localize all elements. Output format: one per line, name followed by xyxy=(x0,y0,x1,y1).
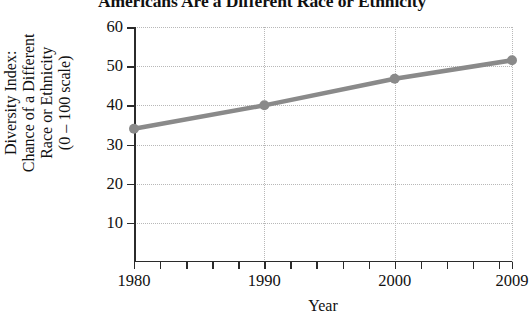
data-point-marker xyxy=(259,100,269,110)
y-axis-tick xyxy=(127,27,134,29)
x-axis-title: Year xyxy=(134,297,512,315)
y-axis-tick-label: 10 xyxy=(107,213,124,233)
x-axis-tick-label: 1990 xyxy=(248,271,281,291)
x-axis-tick xyxy=(160,262,161,269)
series-line xyxy=(134,60,512,129)
x-axis-tick-label: 2009 xyxy=(496,271,529,291)
y-axis-title-line-4: (0 – 100 scale) xyxy=(56,0,74,209)
x-axis-tick-label: 1980 xyxy=(118,271,151,291)
y-axis-tick-label: 50 xyxy=(107,56,124,76)
y-axis-tick xyxy=(127,223,134,225)
y-axis-title-line-2: Chance of a Different xyxy=(20,0,38,209)
y-axis-tick xyxy=(127,145,134,147)
y-axis-tick xyxy=(127,66,134,68)
x-axis-tick xyxy=(343,262,344,269)
y-axis-title-line-3: Race or Ethnicity xyxy=(38,0,56,209)
y-axis-tick-label: 40 xyxy=(107,95,124,115)
y-axis-tick-label: 20 xyxy=(107,174,124,194)
y-axis-tick xyxy=(127,105,134,107)
x-axis-tick xyxy=(499,262,500,269)
x-axis-tick xyxy=(421,262,422,269)
data-point-marker xyxy=(507,55,517,65)
y-axis-tick xyxy=(127,184,134,186)
x-axis-tick xyxy=(512,262,513,269)
x-axis-tick xyxy=(238,262,239,269)
series-line-diversity-index xyxy=(134,27,512,262)
data-point-marker xyxy=(129,124,139,134)
y-axis-tick-label: 60 xyxy=(107,17,124,37)
x-axis-tick xyxy=(316,262,317,269)
x-axis-tick xyxy=(447,262,448,269)
plot-area: 102030405060 1980199020002009 xyxy=(134,27,512,262)
y-axis-title-line-1: Diversity Index: xyxy=(2,0,20,209)
x-axis-tick xyxy=(473,262,474,269)
x-axis-tick xyxy=(134,262,135,269)
x-axis-tick xyxy=(186,262,187,269)
y-axis-title: Diversity Index: Chance of a Different R… xyxy=(2,0,74,209)
x-axis-tick xyxy=(212,262,213,269)
y-axis-tick-label: 30 xyxy=(107,135,124,155)
x-axis-tick xyxy=(264,262,265,269)
data-point-marker xyxy=(390,74,400,84)
x-axis-tick xyxy=(395,262,396,269)
chart-title: Americans Are a Different Race or Ethnic… xyxy=(0,0,524,12)
x-axis-tick xyxy=(369,262,370,269)
x-axis-tick xyxy=(290,262,291,269)
x-axis-tick-label: 2000 xyxy=(378,271,411,291)
